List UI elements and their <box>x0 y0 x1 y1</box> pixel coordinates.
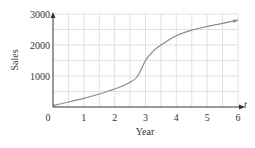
sales-chart: 0123456100020003000 Year Sales t <box>0 0 255 148</box>
y-tick-label: 3000 <box>30 9 50 20</box>
x-tick-label: 5 <box>205 112 210 123</box>
x-tick-label: 6 <box>236 112 241 123</box>
x-tick-label: 0 <box>46 112 51 123</box>
x-axis-variable: t <box>244 99 247 110</box>
x-tick-label: 2 <box>112 112 117 123</box>
y-axis-label: Sales <box>9 49 20 70</box>
x-tick-label: 3 <box>143 112 148 123</box>
y-tick-label: 1000 <box>30 71 50 82</box>
x-tick-label: 1 <box>81 112 86 123</box>
x-tick-label: 4 <box>174 112 179 123</box>
y-tick-label: 2000 <box>30 40 50 51</box>
y-axis-arrow-icon <box>51 12 56 18</box>
x-axis-label: Year <box>136 126 155 137</box>
